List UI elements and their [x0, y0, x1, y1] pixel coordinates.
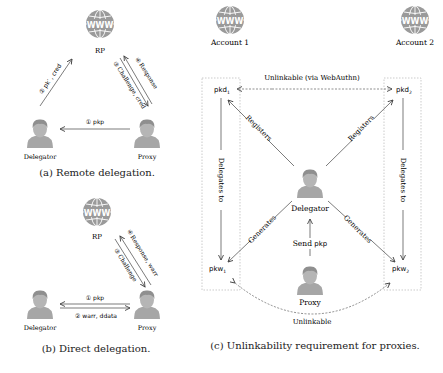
svg-text:WWW: WWW	[87, 21, 114, 30]
proxy-avatar-icon	[134, 119, 160, 148]
proxy-label: Proxy	[138, 153, 157, 161]
panel-b-direct-delegation: WWW RP Delegator Proxy ③ Challenge ④ Res…	[24, 198, 161, 354]
panel-c-unlinkability: WWW Account 1 WWW Account 2 pkd1 pkd2 pk…	[202, 6, 434, 351]
delegator-avatar-icon	[27, 290, 53, 319]
panel-a-remote-delegation: WWW RP Delegator Proxy ② pk′ , cred ③ Ch…	[24, 10, 160, 178]
edge-label-pkp: ① pkp	[86, 294, 105, 302]
delegation-figure: WWW RP Delegator Proxy ② pk′ , cred ③ Ch…	[0, 0, 443, 373]
proxy-label: Proxy	[299, 298, 321, 307]
send-pkp-label: Send pkp	[293, 239, 328, 248]
generates-left-label: Generates	[247, 213, 279, 245]
unlinkable-webauthn-label: Unlinkable (via WebAuthn)	[264, 74, 360, 82]
proxy-avatar-icon	[134, 290, 160, 319]
account1-globe-icon: WWW	[216, 6, 244, 34]
account2-label: Account 2	[395, 38, 434, 47]
edge-label-challenge: ③ Challenge	[112, 247, 139, 283]
pkw1-label: pkw1	[209, 265, 226, 274]
svg-text:WWW: WWW	[402, 17, 429, 26]
delegator-avatar-icon	[297, 169, 323, 198]
edge-label-pkp: ① pkp	[86, 118, 105, 126]
delegator-label: Delegator	[24, 153, 58, 161]
generates-right-label: Generates	[342, 214, 374, 246]
delegator-label: Delegator	[24, 324, 58, 332]
delegates-to-left-label: Delegates to	[217, 158, 225, 203]
rp-label: RP	[95, 47, 105, 55]
pkw2-label: pkw2	[392, 265, 409, 274]
rp-label: RP	[92, 233, 102, 241]
svg-text:WWW: WWW	[217, 17, 244, 26]
caption-a: (a) Remote delegation.	[39, 167, 155, 178]
caption-c: (c) Unlinkability requirement for proxie…	[210, 340, 420, 351]
svg-text:WWW: WWW	[84, 209, 111, 218]
rp-globe-icon: WWW	[86, 10, 114, 38]
delegator-label: Delegator	[291, 204, 329, 213]
account1-label: Account 1	[210, 38, 249, 47]
rp-globe-icon: WWW	[83, 198, 111, 226]
pkd2-label: pkd2	[396, 86, 412, 95]
unlinkable-label: Unlinkable	[293, 318, 332, 326]
caption-b: (b) Direct delegation.	[42, 343, 151, 354]
delegator-avatar-icon	[27, 119, 53, 148]
account2-globe-icon: WWW	[401, 6, 429, 34]
proxy-label: Proxy	[138, 324, 157, 332]
edge-label-warr-ddata: ② warr, ddata	[75, 312, 117, 319]
proxy-avatar-icon	[297, 266, 323, 295]
edge-label-response: ④ Response	[134, 56, 160, 91]
pkd1-label: pkd1	[214, 86, 230, 95]
delegates-to-right-label: Delegates to	[399, 158, 407, 203]
